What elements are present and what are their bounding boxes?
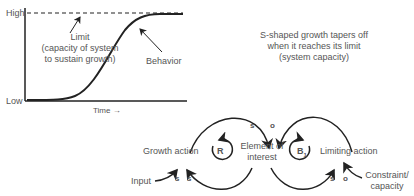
caption: S-shaped growth tapers off when it reach… [254, 30, 374, 63]
y-low-label: Low [6, 96, 23, 107]
input-label: Input [131, 176, 151, 187]
polarity-element-limiting: s [330, 173, 334, 184]
limiting-action-label: Limiting action [320, 146, 378, 157]
reinforcing-loop-label: R [217, 146, 224, 157]
polarity-constraint-limiting: o [343, 173, 348, 184]
polarity-limiting-element: o [270, 120, 275, 131]
limit-label: Limit (capacity of system to sustain gro… [32, 32, 128, 65]
constraint-label: Constraint/ capacity [360, 170, 414, 192]
polarity-element-growth: s [187, 173, 191, 184]
balancing-loop-label: B1 [297, 146, 307, 161]
behavior-label: Behavior [146, 56, 182, 67]
polarity-input-growth: s [175, 173, 179, 184]
growth-action-label: Growth action [143, 146, 199, 157]
y-high-label: High [6, 8, 25, 19]
element-label: Element of interest [236, 141, 288, 163]
polarity-growth-element: s [250, 120, 254, 131]
x-axis-label: Time → [93, 105, 121, 116]
